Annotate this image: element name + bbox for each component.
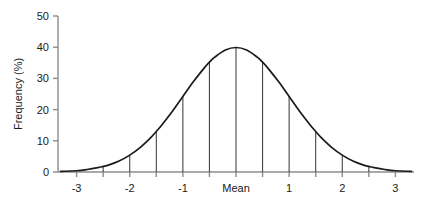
y-tick-label: 30: [37, 72, 49, 84]
y-axis-title: Frequency (%): [12, 58, 24, 130]
x-tick-label: -3: [72, 182, 82, 194]
y-tick-label: 10: [37, 135, 49, 147]
y-tick-label: 0: [43, 166, 49, 178]
chart-canvas: 01020304050 -3-2-1Mean123 Frequency (%): [0, 0, 430, 203]
x-tick-label: 3: [392, 182, 398, 194]
x-tick-label: 1: [286, 182, 292, 194]
x-tick-label: -2: [125, 182, 135, 194]
x-tick-label: Mean: [222, 182, 250, 194]
x-tick-label: -1: [178, 182, 188, 194]
normal-distribution-chart: 01020304050 -3-2-1Mean123 Frequency (%): [0, 0, 430, 203]
y-tick-label: 40: [37, 41, 49, 53]
x-tick-label: 2: [339, 182, 345, 194]
y-tick-label: 20: [37, 104, 49, 116]
y-tick-label: 50: [37, 10, 49, 22]
